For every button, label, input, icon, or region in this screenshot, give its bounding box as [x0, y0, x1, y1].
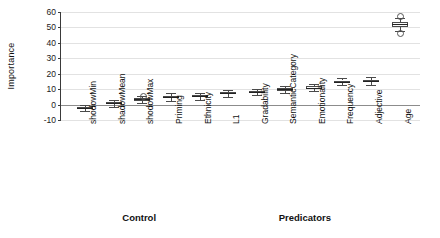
cap-upper	[337, 78, 347, 79]
group-label: Control	[122, 212, 156, 223]
x-tick-label: Age	[403, 109, 413, 124]
cap-lower	[223, 97, 233, 98]
x-tick-label: L1	[231, 115, 241, 124]
cap-upper	[223, 90, 233, 91]
x-tick-label: shadowMean	[117, 73, 127, 124]
x-tick-label: SemanticCategory	[288, 54, 298, 124]
y-tick-mark	[58, 89, 61, 90]
x-tick-label: Frequency	[345, 84, 355, 124]
y-tick-mark	[58, 12, 61, 13]
y-tick-label: 50	[47, 22, 56, 32]
median-line	[334, 82, 350, 83]
y-tick-label: 10	[47, 84, 56, 94]
x-tick-label: Ethnicity	[203, 92, 213, 124]
y-tick-label: -10	[44, 115, 56, 125]
x-tick-label: shodowMin	[88, 81, 98, 124]
x-tick-label: Gradability	[260, 83, 270, 124]
plot-area: -100102030405060	[60, 12, 420, 120]
y-tick-mark	[58, 43, 61, 44]
cap-upper	[366, 77, 376, 78]
boxplot-box	[387, 12, 413, 120]
x-tick-label: Adjective	[374, 90, 384, 125]
median-line	[363, 81, 379, 82]
y-tick-label: 60	[47, 7, 56, 17]
outlier-point	[397, 30, 404, 37]
y-tick-label: 40	[47, 38, 56, 48]
x-tick-label: Emotionality	[317, 78, 327, 124]
x-tick-label: Priming	[174, 95, 184, 124]
outlier-point	[397, 13, 404, 20]
y-tick-label: 30	[47, 53, 56, 63]
group-label: Predicators	[279, 212, 331, 223]
y-tick-mark	[58, 120, 61, 121]
boxplot-chart: Importance -100102030405060 shodowMinsha…	[0, 0, 440, 238]
y-tick-mark	[58, 74, 61, 75]
cap-lower	[366, 85, 376, 86]
y-tick-mark	[58, 105, 61, 106]
y-tick-mark	[58, 58, 61, 59]
y-tick-mark	[58, 27, 61, 28]
median-line	[220, 93, 236, 94]
boxplot-box	[215, 12, 241, 120]
y-tick-label: 0	[51, 100, 56, 110]
median-line	[392, 24, 408, 25]
y-tick-label: 20	[47, 69, 56, 79]
y-axis-label: Importance	[6, 12, 20, 120]
x-tick-label: shodowMax	[145, 79, 155, 124]
